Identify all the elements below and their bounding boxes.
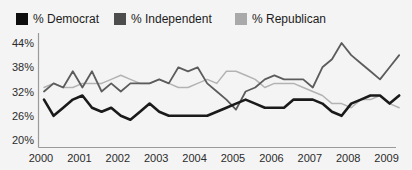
x-tick-label: 2002	[106, 152, 130, 164]
republican-line	[44, 71, 399, 107]
x-tick-label: 2006	[259, 152, 283, 164]
x-tick-label: 2004	[182, 152, 206, 164]
party-id-chart: % Democrat % Independent % Republican 44…	[0, 0, 412, 170]
chart-plot: 44%38%32%26%20%2000200120022003200420052…	[0, 0, 412, 170]
x-tick-label: 2001	[67, 152, 91, 164]
x-tick-label: 2008	[336, 152, 360, 164]
x-tick-label: 2007	[298, 152, 322, 164]
y-tick-label: 20%	[12, 134, 34, 146]
y-tick-label: 26%	[12, 110, 34, 122]
y-tick-label: 32%	[12, 86, 34, 98]
y-tick-label: 44%	[12, 37, 34, 49]
x-tick-label: 2009	[374, 152, 398, 164]
y-tick-label: 38%	[12, 61, 34, 73]
x-tick-label: 2005	[221, 152, 245, 164]
x-tick-label: 2000	[29, 152, 53, 164]
democrat-line	[44, 96, 399, 120]
x-tick-label: 2003	[144, 152, 168, 164]
